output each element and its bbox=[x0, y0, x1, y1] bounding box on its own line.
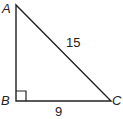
side-label-ac: 15 bbox=[66, 35, 80, 50]
triangle-diagram: A B C 15 9 bbox=[0, 0, 123, 119]
triangle-abc bbox=[16, 5, 111, 101]
vertex-label-b: B bbox=[1, 93, 10, 108]
side-label-bc: 9 bbox=[55, 104, 62, 119]
vertex-label-c: C bbox=[112, 93, 122, 108]
right-angle-marker bbox=[16, 91, 26, 101]
vertex-label-a: A bbox=[1, 1, 11, 16]
